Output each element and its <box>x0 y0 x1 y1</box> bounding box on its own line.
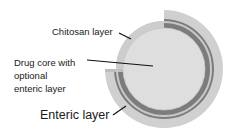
chitosan-layer-label: Chitosan layer <box>52 27 113 37</box>
outer-coating-edge <box>105 69 123 72</box>
drug-core-label: Drug core with optional enteric layer <box>14 56 75 95</box>
drug-core <box>123 28 205 110</box>
drug-core-label-line3: enteric layer <box>14 82 75 95</box>
drug-core-label-line2: optional <box>14 69 75 82</box>
enteric-layer-label: Enteric layer <box>40 109 109 122</box>
drug-core-label-line1: Drug core with <box>14 56 75 69</box>
